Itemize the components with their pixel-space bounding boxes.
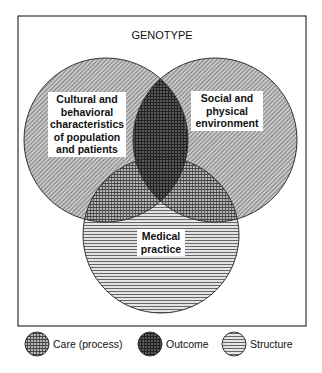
legend-label-structure: Structure [250, 338, 293, 350]
label-social: Social and physical environment [191, 91, 263, 131]
venn-diagram [0, 0, 322, 373]
label-line: Medical [139, 230, 183, 243]
label-line: physical [193, 105, 261, 118]
legend-swatch-outcome [138, 332, 162, 356]
label-line: and patients [50, 143, 124, 156]
label-line: characteristics [50, 118, 124, 131]
legend-swatch-care [25, 332, 49, 356]
legend-label-outcome: Outcome [166, 338, 209, 350]
label-line: behavioral [50, 106, 124, 119]
label-line: Cultural and [50, 93, 124, 106]
label-cultural: Cultural and behavioral characteristics … [48, 92, 126, 157]
label-line: of population [50, 131, 124, 144]
legend-swatch-structure [222, 332, 246, 356]
label-medical: Medical practice [137, 229, 185, 256]
label-line: practice [139, 243, 183, 256]
genotype-title: GENOTYPE [18, 29, 306, 41]
legend-label-care: Care (process) [53, 338, 122, 350]
label-line: environment [193, 117, 261, 130]
label-line: Social and [193, 92, 261, 105]
